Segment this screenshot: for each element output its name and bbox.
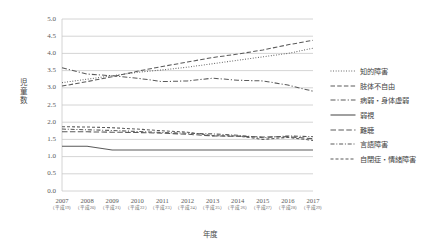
legend-key-icon	[330, 125, 356, 135]
x-tick-year: 2014	[231, 197, 244, 204]
y-tick-label: 4.5	[30, 32, 56, 40]
x-tick-era: （平成29）	[298, 204, 328, 210]
x-tick-label: 2017（平成29）	[298, 197, 328, 210]
legend-item-4[interactable]: 難聴	[330, 122, 430, 137]
series-line-3	[62, 146, 313, 150]
y-tick-label: 3.0	[30, 83, 56, 91]
x-tick-year: 2007	[55, 197, 68, 204]
gridlines	[62, 19, 313, 191]
x-tick-year: 2015	[256, 197, 269, 204]
x-tick-year: 2009	[106, 197, 119, 204]
y-tick-label: 1.0	[30, 152, 56, 160]
legend: 知的障害肢体不自由病弱・身体虚弱弱視難聴言語障害自閉症・情緒障害	[330, 64, 430, 166]
y-tick-label: 0.0	[30, 187, 56, 195]
legend-key-icon	[330, 66, 356, 76]
legend-label: 難聴	[360, 125, 374, 135]
y-tick-label: 2.5	[30, 101, 56, 109]
legend-label: 自閉症・情緒障害	[360, 154, 416, 164]
legend-label: 知的障害	[360, 66, 388, 76]
legend-item-6[interactable]: 自閉症・情緒障害	[330, 152, 430, 167]
series-line-6	[62, 127, 313, 141]
y-tick-label: 1.5	[30, 135, 56, 143]
y-tick-label: 5.0	[30, 15, 56, 23]
legend-key-icon	[330, 139, 356, 149]
x-tick-year: 2011	[156, 197, 169, 204]
legend-item-3[interactable]: 弱視	[330, 108, 430, 123]
legend-key-icon	[330, 95, 356, 105]
legend-item-0[interactable]: 知的障害	[330, 64, 430, 79]
legend-key-icon	[330, 154, 356, 164]
legend-label: 病弱・身体虚弱	[360, 95, 409, 105]
x-tick-year: 2017	[306, 197, 319, 204]
legend-item-5[interactable]: 言語障害	[330, 137, 430, 152]
y-tick-label: 2.0	[30, 118, 56, 126]
series-line-4	[62, 132, 313, 139]
legend-label: 言語障害	[360, 139, 388, 149]
x-tick-year: 2010	[131, 197, 144, 204]
series-lines	[62, 40, 313, 150]
legend-item-2[interactable]: 病弱・身体虚弱	[330, 93, 430, 108]
x-tick-year: 2012	[181, 197, 194, 204]
legend-label: 肢体不自由	[360, 81, 395, 91]
y-tick-label: 4.0	[30, 49, 56, 57]
legend-item-1[interactable]: 肢体不自由	[330, 79, 430, 94]
y-tick-label: 0.5	[30, 169, 56, 177]
legend-key-icon	[330, 110, 356, 120]
line-chart: 児童数 年度 0.00.51.01.52.02.53.03.54.04.55.0…	[0, 0, 431, 247]
x-tick-year: 2013	[206, 197, 219, 204]
y-tick-label: 3.5	[30, 66, 56, 74]
x-tick-year: 2016	[281, 197, 294, 204]
legend-label: 弱視	[360, 110, 374, 120]
series-line-1	[62, 40, 313, 86]
legend-key-icon	[330, 81, 356, 91]
x-tick-year: 2008	[81, 197, 94, 204]
